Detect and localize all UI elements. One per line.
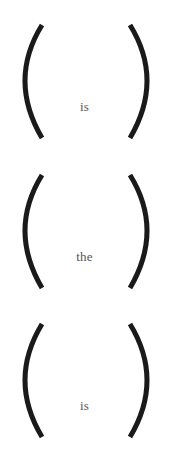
parentheses-icon xyxy=(0,0,169,150)
paren-cell-2: the xyxy=(0,150,169,300)
parentheses-icon xyxy=(0,150,169,300)
cell-word: is xyxy=(0,398,169,414)
paren-cell-1: is xyxy=(0,0,169,150)
cell-word: is xyxy=(0,99,169,115)
parentheses-icon xyxy=(0,300,169,450)
paren-cell-3: is xyxy=(0,300,169,450)
cell-word: the xyxy=(0,249,169,265)
